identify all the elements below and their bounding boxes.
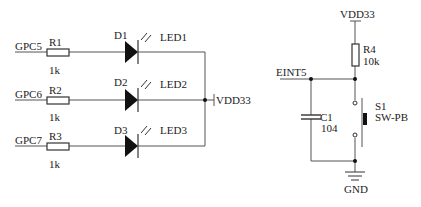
resistor-r4 [352,44,359,66]
ground-label: GND [344,183,368,195]
type-s1: SW-PB [375,111,408,123]
ref-d2: D2 [114,76,127,88]
net-label-gpc7: GPC7 [15,134,42,146]
junction-dot [353,159,357,163]
circuit-schematic: GPC5 R1 1k D1 LED1 GPC6 R2 1k D2 LED2 GP… [0,0,421,207]
resistor-r1 [47,49,69,56]
ref-d1: D1 [114,29,127,41]
net-label-gpc6: GPC6 [15,88,42,100]
value-r1: 1k [49,64,61,76]
label-led3: LED3 [160,124,187,136]
label-led1: LED1 [160,31,187,43]
led-d3-icon [125,126,151,158]
ref-r2: R2 [49,84,62,96]
value-r4: 10k [363,55,380,67]
resistor-r3 [47,143,69,150]
net-label-eint5: EINT5 [276,66,307,78]
supply-label-vdd33-right: VDD33 [340,8,375,20]
ref-r3: R3 [49,130,62,142]
value-r3: 1k [49,158,61,170]
ref-r1: R1 [49,36,62,48]
junction-dot [309,77,313,81]
value-r2: 1k [49,111,61,123]
switch-s1-icon [353,101,367,137]
supply-label-vdd33-left: VDD33 [216,94,251,106]
label-led2: LED2 [160,78,187,90]
led-d1-icon [125,33,151,64]
ref-d3: D3 [114,124,128,136]
capacitor-c1-icon [301,115,321,119]
resistor-r2 [47,97,69,104]
value-c1: 104 [321,122,338,134]
net-label-gpc5: GPC5 [15,40,42,52]
junction-dot [203,98,207,102]
ref-r4: R4 [363,43,376,55]
junction-dot [353,77,357,81]
led-d2-icon [125,80,151,112]
ground-icon [345,172,365,180]
